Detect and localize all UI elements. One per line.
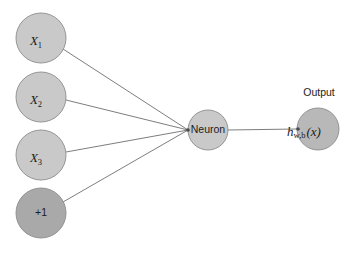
neuron-input-junction-dot [186, 128, 190, 132]
edge-bias-to-neuron [63, 130, 188, 202]
input-node-x2-circle[interactable] [16, 72, 66, 122]
input-node-x1-circle[interactable] [16, 13, 66, 63]
neural-network-diagram: X1X2X3+1Neuronhw,b(x) Output [0, 0, 354, 256]
bias-node-label: +1 [35, 206, 47, 218]
nodes-group: X1X2X3+1Neuronhw,b(x) [16, 13, 339, 238]
edge-x1-to-neuron [63, 49, 188, 130]
input-node-x3-circle[interactable] [16, 130, 66, 180]
output-node-label-argument: (x) [307, 124, 321, 139]
input-node-x3[interactable]: X3 [16, 130, 66, 180]
output-input-junction-dot [296, 127, 300, 131]
output-caption: Output [303, 86, 335, 98]
neuron-node[interactable]: Neuron [188, 110, 228, 150]
output-node[interactable]: hw,b(x) [287, 108, 339, 150]
edge-x2-to-neuron [66, 100, 188, 130]
input-node-x3-label-subscript: 3 [38, 156, 42, 166]
input-node-x2[interactable]: X2 [16, 72, 66, 122]
diagram-svg-canvas: X1X2X3+1Neuronhw,b(x) Output [0, 0, 354, 256]
edges-group [63, 49, 297, 202]
input-node-x1-label-subscript: 1 [38, 39, 42, 49]
input-node-x1[interactable]: X1 [16, 13, 66, 63]
bias-node[interactable]: +1 [16, 188, 66, 238]
input-node-x2-label-subscript: 2 [38, 98, 42, 108]
neuron-node-label: Neuron [191, 123, 226, 135]
captions-group: Output [303, 86, 335, 98]
output-node-label-subscript: w,b [294, 130, 306, 140]
